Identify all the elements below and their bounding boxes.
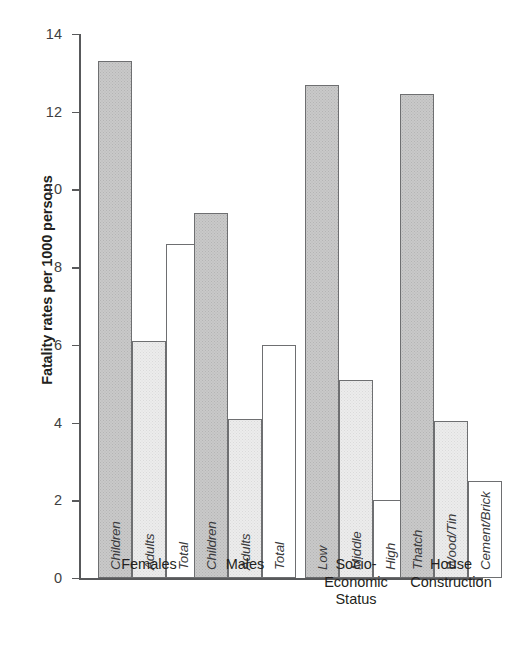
bar: Children — [98, 61, 132, 578]
y-tick-label: 4 — [54, 415, 62, 431]
y-tick: 8 — [72, 267, 79, 268]
y-axis-title: Fatality rates per 1000 persons — [39, 120, 55, 440]
y-tick: 2 — [72, 500, 79, 501]
y-tick-label: 14 — [46, 26, 62, 42]
y-tick-label: 2 — [54, 492, 62, 508]
group-label-line: Construction — [381, 574, 506, 592]
bar: Low — [305, 85, 339, 578]
y-tick: 12 — [72, 112, 79, 113]
y-tick-label: 6 — [54, 337, 62, 353]
y-tick: 4 — [72, 423, 79, 424]
bar: Children — [194, 213, 228, 578]
y-tick-label: 0 — [54, 570, 62, 586]
y-tick-label: 12 — [46, 104, 62, 120]
y-tick-label: 8 — [54, 259, 62, 275]
y-tick: 6 — [72, 345, 79, 346]
y-axis-line — [79, 34, 81, 578]
group-label-line: Status — [286, 591, 426, 609]
plot-area: 02468101214 ChildrenAdultsTotalChildrenA… — [79, 34, 483, 578]
y-tick-label: 10 — [46, 181, 62, 197]
y-tick: 10 — [72, 189, 79, 190]
y-tick: 0 — [72, 578, 79, 579]
group-label-line: House — [381, 556, 506, 574]
bar: Adults — [228, 419, 262, 578]
bar: Thatch — [400, 94, 434, 578]
bar: Wood/Tin — [434, 421, 468, 578]
bar: Middle — [339, 380, 373, 578]
bar: Total — [262, 345, 296, 578]
group-label: HouseConstruction — [381, 556, 506, 591]
y-tick: 14 — [72, 34, 79, 35]
bar: Adults — [132, 341, 166, 578]
